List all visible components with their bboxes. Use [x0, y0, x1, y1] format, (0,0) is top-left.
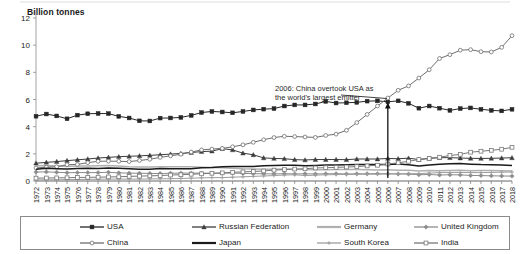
svg-text:2012: 2012 [446, 187, 455, 203]
legend-marker-icon [316, 238, 342, 248]
legend-item-germany[interactable]: Germany [316, 218, 377, 235]
svg-text:1973: 1973 [43, 187, 52, 203]
svg-text:1987: 1987 [187, 187, 196, 203]
legend-marker-icon [413, 238, 439, 248]
svg-text:2000: 2000 [322, 187, 331, 203]
svg-text:1999: 1999 [312, 187, 321, 203]
svg-text:2016: 2016 [488, 187, 497, 203]
svg-text:1989: 1989 [208, 187, 217, 203]
svg-text:1981: 1981 [125, 187, 134, 203]
svg-text:6: 6 [26, 96, 31, 105]
svg-text:2008: 2008 [405, 187, 414, 203]
svg-text:4: 4 [26, 123, 31, 132]
legend-item-russian-federation[interactable]: Russian Federation [191, 218, 289, 235]
legend-item-usa[interactable]: USA [79, 218, 124, 235]
svg-text:1983: 1983 [146, 187, 155, 203]
chart-page: Billion tonnes 0246810121972197319741975… [0, 0, 528, 254]
svg-text:1988: 1988 [198, 187, 207, 203]
legend-label: United Kingdom [441, 222, 499, 231]
svg-text:1986: 1986 [177, 187, 186, 203]
svg-text:0: 0 [26, 177, 31, 186]
svg-text:2004: 2004 [363, 187, 372, 203]
legend-label: India [441, 238, 459, 247]
series-usa [34, 99, 514, 123]
axes-frame [20, 2, 512, 181]
legend-label: USA [107, 222, 124, 231]
legend-label: Germany [344, 222, 377, 231]
legend-label: South Korea [344, 238, 389, 247]
svg-text:1985: 1985 [167, 187, 176, 203]
svg-text:1979: 1979 [105, 187, 114, 203]
svg-text:2017: 2017 [498, 187, 507, 203]
svg-text:2005: 2005 [374, 187, 383, 203]
svg-text:2: 2 [26, 150, 31, 159]
legend-item-japan[interactable]: Japan [191, 234, 241, 251]
series-china [34, 34, 514, 170]
svg-text:1975: 1975 [63, 187, 72, 203]
svg-text:1994: 1994 [260, 187, 269, 203]
legend-label: China [107, 238, 128, 247]
legend-row: USARussian FederationGermanyUnited Kingd… [21, 218, 509, 235]
legend-marker-icon [191, 238, 217, 248]
svg-text:1976: 1976 [74, 187, 83, 203]
svg-text:2014: 2014 [467, 187, 476, 203]
svg-text:2002: 2002 [343, 187, 352, 203]
legend-item-south-korea[interactable]: South Korea [316, 234, 389, 251]
legend-marker-icon [316, 222, 342, 232]
svg-text:2006: 2006 [384, 187, 393, 203]
svg-text:2013: 2013 [456, 187, 465, 203]
svg-text:2001: 2001 [332, 187, 341, 203]
annotation-arrow [385, 103, 391, 179]
svg-text:1977: 1977 [84, 187, 93, 203]
svg-text:1996: 1996 [281, 187, 290, 203]
legend-marker-icon [79, 222, 105, 232]
svg-text:1991: 1991 [229, 187, 238, 203]
chart-legend: USARussian FederationGermanyUnited Kingd… [20, 216, 510, 250]
svg-text:1990: 1990 [218, 187, 227, 203]
legend-label: Japan [219, 238, 241, 247]
legend-marker-icon [191, 222, 217, 232]
legend-label: Russian Federation [219, 222, 289, 231]
svg-text:2015: 2015 [477, 187, 486, 203]
annotation-line-2: the world's largest emitter [275, 93, 360, 103]
svg-text:1972: 1972 [32, 187, 41, 203]
series-russian-federation [34, 146, 515, 165]
legend-marker-icon [79, 238, 105, 248]
svg-text:1984: 1984 [156, 187, 165, 203]
svg-text:1995: 1995 [270, 187, 279, 203]
svg-text:2011: 2011 [436, 187, 445, 202]
svg-text:1980: 1980 [115, 187, 124, 203]
svg-text:10: 10 [21, 41, 30, 50]
legend-row: ChinaJapanSouth KoreaIndia [21, 234, 509, 251]
svg-text:1993: 1993 [250, 187, 259, 203]
svg-text:2007: 2007 [394, 187, 403, 203]
svg-text:8: 8 [26, 68, 31, 77]
svg-text:2003: 2003 [353, 187, 362, 203]
legend-marker-icon [413, 222, 439, 232]
svg-text:1992: 1992 [239, 187, 248, 203]
y-axis-ticks: 024681012 [21, 14, 36, 186]
legend-item-united-kingdom[interactable]: United Kingdom [413, 218, 499, 235]
svg-text:2009: 2009 [415, 187, 424, 203]
svg-text:1982: 1982 [136, 187, 145, 203]
legend-item-china[interactable]: China [79, 234, 128, 251]
svg-text:1978: 1978 [94, 187, 103, 203]
svg-text:2010: 2010 [425, 187, 434, 203]
svg-text:12: 12 [21, 14, 30, 23]
svg-text:1974: 1974 [53, 187, 62, 203]
x-axis-ticks: 1972197319741975197619771978197919801981… [32, 181, 517, 203]
svg-text:2018: 2018 [508, 187, 517, 203]
legend-item-india[interactable]: India [413, 234, 459, 251]
svg-text:1998: 1998 [301, 187, 310, 203]
svg-text:1997: 1997 [291, 187, 300, 203]
